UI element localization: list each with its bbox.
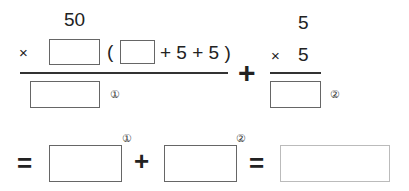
sum-term-1-input[interactable] [49,145,122,182]
left-multiplier-input[interactable] [49,39,100,65]
final-answer-input[interactable] [280,145,390,182]
sum-term-2-input[interactable] [164,145,237,182]
left-top-number: 50 [64,10,85,29]
sum-marker-2: ② [236,133,246,144]
marker-1: ① [110,89,120,100]
paren-expression-tail: + 5 + 5 ) [160,43,231,62]
sum-marker-1: ① [122,133,132,144]
left-result-input[interactable] [30,81,100,108]
right-fraction-line [270,72,321,74]
paren-first-term-input[interactable] [120,40,155,64]
open-paren: ( [107,42,113,61]
marker-2: ② [330,89,340,100]
left-fraction-line [20,72,228,74]
right-multiplier: 5 [298,45,309,64]
right-top-number: 5 [298,13,309,32]
equals-sign-2: = [249,150,264,176]
sum-plus-sign: + [134,148,149,174]
right-result-input[interactable] [270,81,321,108]
plus-sign: + [238,58,256,88]
equals-sign-1: = [17,150,32,176]
right-times-sign: × [271,48,280,63]
left-times-sign: × [19,45,28,60]
